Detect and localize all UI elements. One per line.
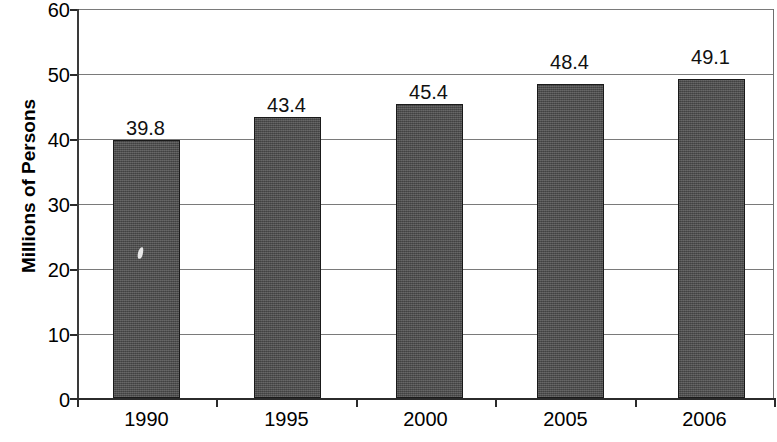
- value-label-1995: 43.4: [219, 95, 354, 115]
- x-axis-line: [77, 398, 775, 400]
- x-tick-label-2005: 2005: [498, 409, 633, 429]
- x-tick-label-1990: 1990: [79, 409, 214, 429]
- x-tick-label-2000: 2000: [358, 409, 493, 429]
- y-tick-label-0: 0: [10, 390, 70, 410]
- x-tick-mark-1: [216, 398, 218, 407]
- y-tick-label-60: 60: [10, 0, 70, 20]
- bar-2005[interactable]: [537, 84, 604, 398]
- x-tick-mark-5: [774, 398, 776, 407]
- y-tick-label-20: 20: [10, 260, 70, 280]
- x-tick-mark-4: [635, 398, 637, 407]
- gridline-60: [79, 9, 773, 10]
- x-tick-mark-2: [356, 398, 358, 407]
- x-tick-mark-3: [495, 398, 497, 407]
- bar-2000[interactable]: [396, 104, 463, 398]
- image-artifact-speck: [137, 247, 145, 260]
- y-tick-label-40: 40: [10, 130, 70, 150]
- plot-area: [77, 9, 774, 398]
- bar-1995[interactable]: [254, 117, 321, 398]
- x-tick-label-1995: 1995: [219, 409, 354, 429]
- gridline-50: [79, 74, 773, 75]
- value-label-1990: 39.8: [78, 118, 213, 138]
- x-tick-label-2006: 2006: [637, 409, 772, 429]
- y-tick-label-10: 10: [10, 325, 70, 345]
- y-tick-label-30: 30: [10, 195, 70, 215]
- x-tick-mark-0: [77, 398, 79, 407]
- value-label-2000: 45.4: [361, 82, 496, 102]
- bar-1990[interactable]: [113, 140, 180, 398]
- value-label-2005: 48.4: [502, 52, 637, 72]
- bar-2006[interactable]: [678, 79, 745, 398]
- value-label-2006: 49.1: [643, 47, 777, 67]
- y-axis-ticks: 60 50 40 30 20 10 0: [0, 0, 70, 442]
- y-tick-label-50: 50: [10, 65, 70, 85]
- bar-chart: Millions of Persons 60 50 40 30 20 10 0: [0, 0, 777, 442]
